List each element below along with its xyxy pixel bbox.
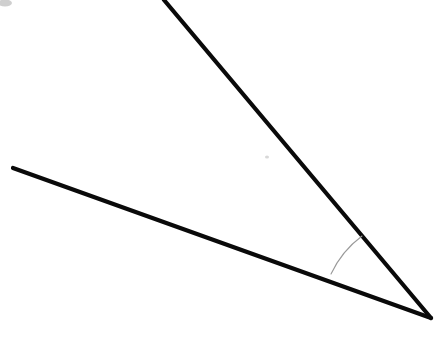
paper-speck-artifact	[265, 155, 269, 158]
figure-canvas	[0, 0, 439, 360]
angle-diagram	[0, 0, 439, 360]
diagram-background	[0, 0, 439, 360]
